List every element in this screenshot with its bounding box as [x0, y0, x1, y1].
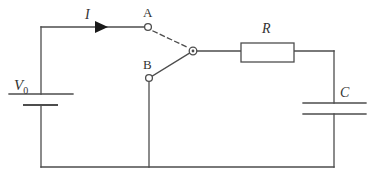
capacitor-label: C: [340, 85, 350, 100]
switch-blade-to-a-dashed[interactable]: [153, 31, 189, 48]
source-label: V0: [14, 77, 28, 96]
source-label-subscript: 0: [23, 85, 28, 96]
circuit-diagram-figure: V0 I A B R C: [0, 0, 369, 175]
current-direction-arrow-icon: [95, 21, 108, 33]
switch-blade-to-b[interactable]: [149, 51, 193, 78]
current-label: I: [84, 7, 91, 22]
contact-a-terminal[interactable]: [145, 24, 152, 31]
switch-pivot-dot: [192, 50, 195, 53]
contact-a-label: A: [143, 5, 153, 20]
contact-b-label: B: [143, 57, 152, 72]
resistor-label: R: [261, 21, 271, 36]
resistor-body: [241, 43, 294, 62]
circuit-schematic: V0 I A B R C: [0, 0, 369, 175]
contact-b-terminal[interactable]: [146, 75, 153, 82]
